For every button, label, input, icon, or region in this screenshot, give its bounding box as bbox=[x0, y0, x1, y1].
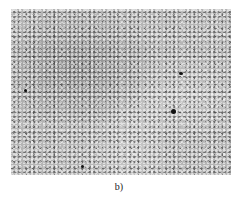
subfigure-label: b) bbox=[0, 181, 238, 192]
dark-particle bbox=[81, 165, 84, 168]
micrograph-image bbox=[11, 9, 231, 175]
dark-particle bbox=[179, 72, 183, 75]
dark-particle bbox=[171, 109, 176, 114]
dark-particle bbox=[24, 89, 27, 92]
